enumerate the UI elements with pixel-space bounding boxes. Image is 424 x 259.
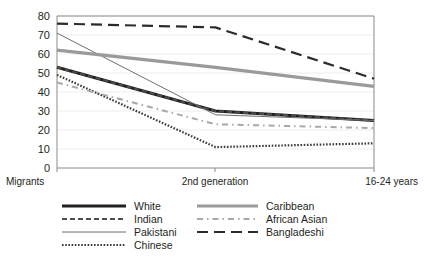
y-tick-label-50: 50	[38, 67, 50, 79]
legend-label-chinese: Chinese	[134, 239, 173, 251]
x-category-label-migrants: Migrants	[6, 176, 44, 187]
legend-label-pakistani: Pakistani	[134, 226, 177, 238]
legend-label-bangladeshi: Bangladeshi	[266, 226, 324, 238]
y-tick-label-70: 70	[38, 29, 50, 41]
legend-label-caribbean: Caribbean	[266, 200, 315, 212]
y-tick-label-10: 10	[38, 143, 50, 155]
y-tick-label-30: 30	[38, 105, 50, 117]
legend-label-indian: Indian	[134, 213, 163, 225]
y-tick-label-40: 40	[38, 86, 50, 98]
y-tick-label-0: 0	[44, 162, 50, 174]
x-category-label-2nd-generation: 2nd generation	[182, 176, 249, 187]
y-axis-labels: 80 70 60 50 40 30 20 10 0	[38, 10, 50, 174]
y-tick-label-60: 60	[38, 48, 50, 60]
y-tick-label-80: 80	[38, 10, 50, 22]
line-chart: 80 70 60 50 40 30 20 10 0 Migrants 2nd g…	[0, 0, 424, 259]
x-category-label-16-24-years: 16-24 years	[365, 176, 418, 187]
legend-label-african-asian: African Asian	[266, 213, 327, 225]
chart-background	[0, 0, 424, 259]
chart-plot-area: 80 70 60 50 40 30 20 10 0 Migrants 2nd g…	[0, 0, 424, 259]
legend-label-white: White	[134, 200, 161, 212]
y-tick-label-20: 20	[38, 124, 50, 136]
